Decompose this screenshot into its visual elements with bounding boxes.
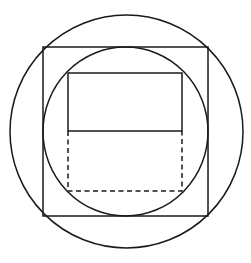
inner-rectangle-solid-top <box>68 73 182 131</box>
nested-shapes-diagram <box>0 0 251 263</box>
inner-rectangle-dashed-bottom <box>68 131 182 191</box>
